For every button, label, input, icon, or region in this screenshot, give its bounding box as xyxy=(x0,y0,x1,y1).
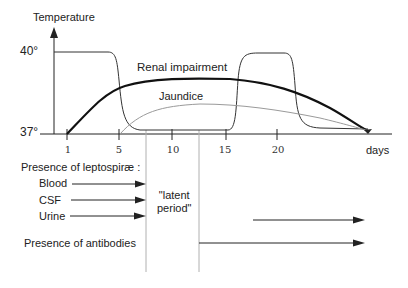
antibodies-label: Presence of antibodies xyxy=(24,237,136,249)
renal-impairment-label: Renal impairment xyxy=(137,61,227,73)
x-tick-20: 20 xyxy=(272,144,285,155)
x-tick-10: 10 xyxy=(167,144,180,155)
urine-late-arrow-icon xyxy=(353,217,365,224)
y-tick-37: 37° xyxy=(20,125,38,139)
blood-arrow-icon xyxy=(135,181,146,188)
x-tick-1: 1 xyxy=(65,144,71,155)
renal-impairment-curve xyxy=(67,79,368,134)
jaundice-label: Jaundice xyxy=(159,90,203,102)
csf-label: CSF xyxy=(39,194,61,206)
leptospirae-heading: Presence of leptospiræ : xyxy=(21,161,140,173)
urine-label: Urine xyxy=(39,210,65,222)
blood-label: Blood xyxy=(39,177,67,189)
antibodies-arrow-icon xyxy=(353,240,365,247)
y-axis-arrow-icon xyxy=(50,27,58,38)
x-tick-15: 15 xyxy=(219,144,232,155)
y-axis-label: Temperature xyxy=(33,11,95,23)
leptospirae-arrows xyxy=(70,184,138,216)
x-axis-unit: days xyxy=(366,144,389,156)
urine-arrow-icon xyxy=(134,213,146,220)
y-tick-40: 40° xyxy=(20,44,38,58)
latent-period-line1: "latent xyxy=(157,189,191,202)
csf-arrow-icon xyxy=(135,197,146,204)
latent-period-line2: period" xyxy=(157,202,191,215)
latent-period-label: "latent period" xyxy=(157,189,191,215)
x-tick-5: 5 xyxy=(116,144,122,155)
